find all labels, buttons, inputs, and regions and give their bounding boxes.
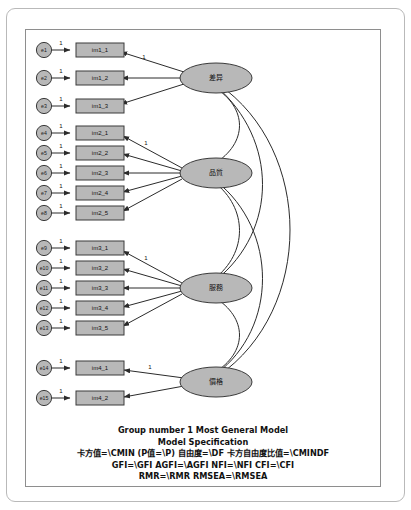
error-coefficient-e10: 1 <box>59 258 63 264</box>
loading-f1-im1_1[interactable] <box>121 52 184 72</box>
loading-f4-im4_2[interactable] <box>124 386 184 397</box>
indicator-label-im3_4: im3_4 <box>92 305 109 311</box>
error-label-e6: e6 <box>41 170 47 176</box>
loading-coefficient-f2: 1 <box>144 140 148 146</box>
caption-line-residuals: RMR=\RMR RMSEA=\RMSEA <box>25 471 381 483</box>
measurement-group-3: 1 1 1 1 1 1 e9 e10 e11 e12 e <box>36 238 252 336</box>
loading-f4-im4_1[interactable] <box>124 370 184 378</box>
error-coefficient-e14: 1 <box>59 358 63 364</box>
caption-line-group: Group number 1 Most General Model <box>25 425 381 437</box>
error-coefficient-e7: 1 <box>59 183 63 189</box>
latent-label-f4: 價格 <box>209 377 223 386</box>
error-coefficient-e1: 1 <box>59 40 63 46</box>
indicator-label-im2_1: im2_1 <box>92 130 109 136</box>
indicator-label-im1_3: im1_3 <box>92 103 109 109</box>
page-canvas: 1 1 1 1 e1 e2 e3 im1_1 im1_2 <box>6 8 405 502</box>
error-label-e5: e5 <box>41 150 47 156</box>
error-label-e9: e9 <box>41 245 47 251</box>
error-coefficient-e4: 1 <box>59 123 63 129</box>
indicator-label-im3_5: im3_5 <box>92 325 109 331</box>
caption-line-fitindices: GFI=\GFI AGFI=\AGFI NFI=\NFI CFI=\CFI <box>25 460 381 472</box>
loading-coefficient-f4: 1 <box>148 364 152 370</box>
indicator-label-im3_2: im3_2 <box>92 265 109 271</box>
indicator-label-im2_2: im2_2 <box>92 150 109 156</box>
loading-coefficient-f1: 1 <box>142 54 146 60</box>
indicator-label-im4_2: im4_2 <box>92 395 109 401</box>
covariance-edges <box>214 84 290 376</box>
error-label-e11: e11 <box>40 285 48 291</box>
latent-label-f1: 差异 <box>209 73 223 82</box>
indicator-label-im3_1: im3_1 <box>92 245 109 251</box>
error-label-e4: e4 <box>41 130 47 136</box>
loading-f2-im2_2[interactable] <box>123 154 182 171</box>
caption-line-chisq: 卡方值=\CMIN (P值=\P) 自由度=\DF 卡方自由度比值=\CMIND… <box>25 448 381 460</box>
sem-path-diagram[interactable]: 1 1 1 1 e1 e2 e3 im1_1 im1_2 <box>26 30 381 487</box>
error-label-e13: e13 <box>40 325 49 331</box>
error-label-e8: e8 <box>41 210 47 216</box>
loading-f3-im3_1[interactable] <box>123 251 182 283</box>
measurement-group-4: 1 1 1 e14 e15 im4_1 im4_2 價格 <box>36 358 252 406</box>
indicator-label-im2_4: im2_4 <box>92 190 109 196</box>
error-coefficient-e15: 1 <box>59 388 63 394</box>
indicator-label-im2_3: im2_3 <box>92 170 109 176</box>
error-label-e1: e1 <box>41 47 47 53</box>
error-label-e15: e15 <box>40 395 49 401</box>
error-coefficient-e8: 1 <box>59 203 63 209</box>
error-coefficient-e2: 1 <box>59 68 63 74</box>
error-coefficient-e3: 1 <box>59 96 63 102</box>
loading-f2-im2_1[interactable] <box>123 136 182 168</box>
indicator-label-im1_1: im1_1 <box>92 47 109 53</box>
caption-line-specification: Model Specification <box>25 437 381 449</box>
loading-f1-im1_3[interactable] <box>121 84 184 104</box>
loading-coefficient-f3: 1 <box>144 255 148 261</box>
error-coefficient-e9: 1 <box>59 238 63 244</box>
measurement-group-2: 1 1 1 1 1 1 e4 e5 e6 e7 e8 <box>36 123 252 221</box>
indicator-label-im4_1: im4_1 <box>92 365 109 371</box>
error-coefficient-e13: 1 <box>59 318 63 324</box>
covariance-f2-f3[interactable] <box>214 182 240 279</box>
error-label-e3: e3 <box>41 103 47 109</box>
latent-label-f2: 品質 <box>209 168 223 177</box>
error-label-e10: e10 <box>40 265 49 271</box>
error-label-e2: e2 <box>41 75 47 81</box>
indicator-label-im1_2: im1_2 <box>92 75 109 81</box>
error-label-e14: e14 <box>40 365 49 371</box>
diagram-frame: 1 1 1 1 e1 e2 e3 im1_1 im1_2 <box>25 29 381 487</box>
model-caption: Group number 1 Most General Model Model … <box>25 425 381 483</box>
indicator-label-im3_3: im3_3 <box>92 285 109 291</box>
latent-label-f3: 服務 <box>209 283 223 292</box>
error-coefficient-e5: 1 <box>59 143 63 149</box>
loading-f3-im3_2[interactable] <box>123 269 182 286</box>
error-coefficient-e11: 1 <box>59 278 63 284</box>
error-label-e7: e7 <box>41 190 47 196</box>
indicator-label-im2_5: im2_5 <box>92 210 109 216</box>
error-coefficient-e12: 1 <box>59 298 63 304</box>
error-label-e12: e12 <box>40 305 49 311</box>
error-coefficient-e6: 1 <box>59 163 63 169</box>
measurement-group-1: 1 1 1 1 e1 e2 e3 im1_1 im1_2 <box>36 40 252 114</box>
